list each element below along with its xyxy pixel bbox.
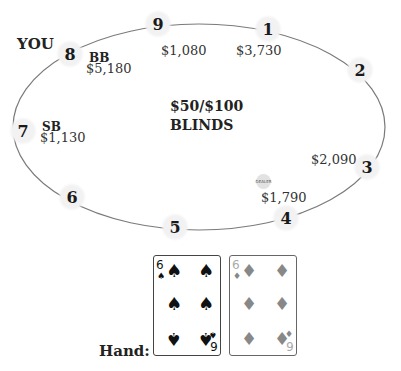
seat-4[interactable]: 4 bbox=[272, 204, 300, 232]
blinds-amount: $50/$100 bbox=[170, 98, 260, 114]
hand-label: Hand: bbox=[99, 342, 150, 360]
seat-1-stack: $3,730 bbox=[236, 44, 282, 57]
seat-4-stack: $1,790 bbox=[261, 191, 307, 204]
seat-9-stack: $1,080 bbox=[161, 44, 207, 57]
dealer-label: DEALER bbox=[256, 179, 272, 184]
seat-number: 2 bbox=[354, 61, 365, 80]
seat-9[interactable]: 9 bbox=[144, 10, 172, 38]
seat-5[interactable]: 5 bbox=[161, 213, 189, 241]
diamond-icon: ♦ bbox=[239, 295, 259, 313]
seat-number: 7 bbox=[17, 122, 28, 141]
seat-number: 5 bbox=[169, 218, 180, 237]
seat-8-stack: $5,180 bbox=[86, 62, 132, 75]
card-six-of-diamonds[interactable]: 6 ♦ ♦ ♦ ♦ ♦ ♦ ♦ ♦ 6 bbox=[229, 255, 297, 356]
spade-icon: ♠ bbox=[164, 262, 184, 280]
seat-number: 1 bbox=[262, 20, 273, 39]
seat-2[interactable]: 2 bbox=[346, 56, 374, 84]
seat-1[interactable]: 1 bbox=[254, 15, 282, 43]
seat-3-stack: $2,090 bbox=[311, 153, 357, 166]
you-label: YOU bbox=[17, 35, 54, 53]
spade-icon: ♠ bbox=[209, 330, 217, 339]
spade-icon: ♠ bbox=[164, 330, 184, 348]
diamond-icon: ♦ bbox=[239, 330, 259, 348]
card-six-of-spades[interactable]: 6 ♠ ♠ ♠ ♠ ♠ ♠ ♠ ♠ 6 bbox=[153, 255, 221, 356]
dealer-button: DEALER bbox=[256, 174, 271, 189]
seat-number: 6 bbox=[66, 188, 77, 207]
card-rank: 6 bbox=[210, 340, 218, 352]
seat-6[interactable]: 6 bbox=[58, 183, 86, 211]
spade-icon: ♠ bbox=[164, 295, 184, 313]
card-rank: 6 bbox=[286, 340, 294, 352]
diamond-icon: ♦ bbox=[285, 330, 293, 339]
diamond-icon: ♦ bbox=[239, 262, 259, 280]
diamond-icon: ♦ bbox=[272, 295, 292, 313]
spade-icon: ♠ bbox=[196, 262, 216, 280]
seat-7[interactable]: 7 bbox=[9, 117, 37, 145]
diamond-icon: ♦ bbox=[272, 262, 292, 280]
blinds-label: BLINDS bbox=[170, 117, 260, 133]
seat-number: 8 bbox=[64, 45, 75, 64]
spade-icon: ♠ bbox=[196, 295, 216, 313]
seat-8[interactable]: 8 bbox=[56, 40, 84, 68]
seat-number: 4 bbox=[280, 209, 291, 228]
card-rank: 6 bbox=[156, 259, 164, 271]
seat-number: 9 bbox=[152, 15, 163, 34]
seat-7-stack: $1,130 bbox=[40, 131, 86, 144]
seat-3[interactable]: 3 bbox=[353, 153, 381, 181]
seat-number: 3 bbox=[361, 158, 372, 177]
